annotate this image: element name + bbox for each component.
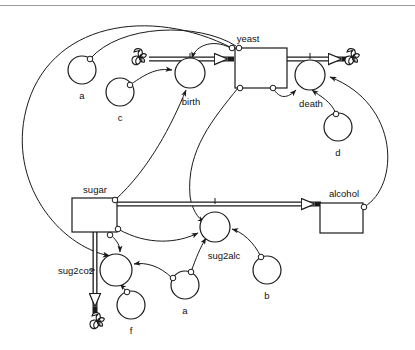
converter-a-bottom[interactable]	[171, 271, 199, 299]
cloud-birth-source-icon	[132, 49, 146, 65]
port-a-top[interactable]	[87, 56, 93, 62]
flow-valve-sug2co2[interactable]	[100, 254, 132, 286]
stock-alcohol[interactable]	[320, 203, 363, 233]
label-sug2alc: sug2alc	[208, 250, 241, 261]
connector-sugar-to-sug2alc	[118, 229, 198, 241]
connector-a-bottom-to-sug2alc	[191, 238, 206, 272]
flow-valve-birth[interactable]	[175, 58, 205, 88]
connector-c-to-birth	[130, 70, 172, 85]
diagram-canvas: yeast birth death a c d sugar alcohol su…	[0, 0, 415, 350]
connector-a-bottom-to-sug2co2	[134, 264, 172, 278]
label-yeast: yeast	[237, 33, 260, 44]
flow-valve-sug2alc[interactable]	[200, 212, 230, 242]
cloud-death-sink-icon	[345, 49, 359, 65]
port-b[interactable]	[258, 254, 264, 260]
converter-f[interactable]	[117, 291, 145, 319]
label-birth: birth	[182, 96, 200, 107]
port-a-bottom-left[interactable]	[170, 275, 176, 281]
stock-sugar[interactable]	[72, 198, 117, 232]
port-yeast-bottomleft[interactable]	[237, 85, 243, 91]
port-f[interactable]	[124, 289, 130, 295]
port-yeast-topleft-a[interactable]	[229, 45, 235, 51]
system-dynamics-diagram: yeast birth death a c d sugar alcohol su…	[0, 0, 415, 350]
label-b: b	[264, 290, 269, 301]
port-alcohol-right[interactable]	[361, 204, 367, 210]
port-d[interactable]	[333, 111, 339, 117]
connector-sugar-to-sug2co2	[111, 235, 120, 252]
label-sug2co2: sug2co2	[58, 265, 94, 276]
flow-valve-death[interactable]	[295, 60, 325, 90]
connector-a-top-to-yeast	[90, 30, 236, 59]
label-sugar: sugar	[83, 184, 107, 195]
label-a-bottom: a	[182, 305, 188, 316]
label-a-top: a	[79, 90, 85, 101]
port-sugar-bottom[interactable]	[107, 232, 113, 238]
connector-yeast-to-death	[273, 88, 296, 97]
connector-sugar-to-birth	[115, 90, 186, 200]
port-yeast-topleft-b[interactable]	[236, 45, 242, 51]
label-c: c	[118, 112, 123, 123]
label-f: f	[130, 325, 133, 336]
port-a-bottom-top[interactable]	[188, 269, 194, 275]
converter-d[interactable]	[324, 113, 352, 141]
port-sugar-topright[interactable]	[112, 197, 118, 203]
stock-yeast[interactable]	[235, 48, 287, 88]
label-death: death	[299, 98, 323, 109]
label-d: d	[335, 147, 340, 158]
label-alcohol: alcohol	[329, 188, 359, 199]
converter-b[interactable]	[253, 256, 281, 284]
port-yeast-bottomright[interactable]	[270, 85, 276, 91]
port-sugar-right-lower[interactable]	[115, 226, 121, 232]
cloud-co2-sink-icon	[90, 313, 104, 329]
port-c[interactable]	[127, 82, 133, 88]
